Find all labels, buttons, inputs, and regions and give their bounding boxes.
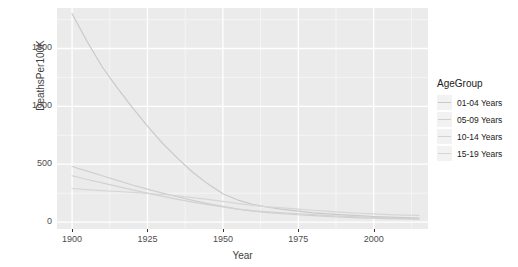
x-tick-label: 1900 — [52, 234, 92, 244]
x-axis-title: Year — [57, 250, 428, 261]
legend-key-swatch — [437, 146, 452, 161]
legend-key-swatch — [437, 112, 452, 127]
minor-gridlines — [57, 8, 428, 229]
legend-item[interactable]: 10-14 Years — [437, 129, 517, 144]
legend-key-swatch — [437, 95, 452, 110]
legend-item-label: 10-14 Years — [457, 132, 502, 142]
legend-item[interactable]: 01-04 Years — [437, 95, 517, 110]
x-tick-mark — [72, 229, 73, 232]
y-tick-label: 1500 — [22, 43, 52, 52]
legend-title: AgeGroup — [437, 78, 517, 89]
legend-key-swatch — [437, 129, 452, 144]
legend-item[interactable]: 15-19 Years — [437, 146, 517, 161]
legend-item-label: 15-19 Years — [457, 149, 502, 159]
y-tick-label: 500 — [22, 159, 52, 168]
legend-items: 01-04 Years05-09 Years10-14 Years15-19 Y… — [437, 95, 517, 161]
x-tick-label: 1925 — [127, 234, 167, 244]
x-tick-mark — [147, 229, 148, 232]
y-axis-tick-group: 050010001500 — [16, 0, 52, 267]
legend-item[interactable]: 05-09 Years — [437, 112, 517, 127]
y-tick-label: 1000 — [22, 101, 52, 110]
plot-area-svg — [57, 8, 428, 229]
major-gridlines — [57, 8, 428, 229]
x-tick-label: 1975 — [278, 234, 318, 244]
x-tick-label: 1950 — [203, 234, 243, 244]
plot-panel — [57, 8, 428, 229]
legend: AgeGroup 01-04 Years05-09 Years10-14 Yea… — [437, 78, 517, 163]
legend-item-label: 05-09 Years — [457, 115, 502, 125]
x-tick-label: 2000 — [354, 234, 394, 244]
series-lines — [72, 14, 419, 219]
x-tick-mark — [298, 229, 299, 232]
line-chart: DeathsPer100K 050010001500 1900192519501… — [0, 0, 518, 267]
x-axis-tick-group: 19001925195019752000 — [57, 229, 428, 249]
y-tick-label: 0 — [22, 217, 52, 226]
x-tick-mark — [223, 229, 224, 232]
x-tick-mark — [374, 229, 375, 232]
legend-item-label: 01-04 Years — [457, 98, 502, 108]
